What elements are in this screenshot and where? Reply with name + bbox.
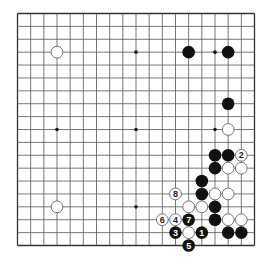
white-stone[interactable]: [222, 214, 234, 226]
black-stone[interactable]: [222, 226, 235, 239]
move-number-label: 2: [239, 150, 244, 160]
white-stone-icon: [222, 214, 234, 226]
black-stone-icon: [235, 226, 248, 239]
white-stone-icon: [209, 188, 221, 200]
white-stone[interactable]: [183, 201, 195, 213]
black-stone-icon: [209, 149, 222, 162]
black-stone[interactable]: [222, 97, 235, 110]
move-number-label: 1: [199, 228, 204, 238]
move-number-label: 8: [173, 189, 178, 199]
numbered-move[interactable]: 6: [156, 214, 168, 226]
black-stone-icon: [222, 226, 235, 239]
black-stone[interactable]: [222, 46, 235, 59]
black-stone-icon: [209, 201, 222, 214]
white-stone[interactable]: [222, 188, 234, 200]
white-stone-icon: [196, 201, 208, 213]
white-stone-icon: [183, 227, 195, 239]
move-number-label: 4: [173, 215, 178, 225]
black-stone[interactable]: [209, 213, 222, 226]
white-stone[interactable]: [51, 46, 63, 58]
white-stone-icon: [235, 162, 247, 174]
white-stone[interactable]: [222, 124, 234, 136]
star-point: [134, 205, 138, 209]
black-stone-icon: [209, 213, 222, 226]
white-stone-icon: [222, 124, 234, 136]
black-stone[interactable]: [235, 226, 248, 239]
numbered-move[interactable]: 3: [169, 226, 182, 239]
numbered-move[interactable]: 7: [182, 213, 195, 226]
white-stone[interactable]: [222, 162, 234, 174]
move-number-label: 6: [160, 215, 165, 225]
go-board[interactable]: 12345678: [0, 0, 272, 265]
move-number-label: 5: [186, 241, 191, 251]
star-point: [134, 128, 138, 132]
star-point: [213, 128, 217, 132]
white-stone-icon: [51, 46, 63, 58]
black-stone-icon: [196, 188, 209, 201]
black-stone-icon: [222, 46, 235, 59]
black-stone[interactable]: [209, 149, 222, 162]
white-stone[interactable]: [183, 227, 195, 239]
black-stone-icon: [209, 162, 222, 175]
numbered-move[interactable]: 2: [235, 149, 247, 161]
white-stone-icon: [222, 188, 234, 200]
white-stone-icon: [222, 162, 234, 174]
black-stone[interactable]: [196, 175, 209, 188]
white-stone[interactable]: [196, 201, 208, 213]
black-stone-icon: [196, 175, 209, 188]
star-point: [134, 50, 138, 54]
black-stone[interactable]: [209, 201, 222, 214]
white-stone[interactable]: [51, 201, 63, 213]
star-point: [55, 128, 59, 132]
numbered-move[interactable]: 1: [196, 226, 209, 239]
black-stone-icon: [182, 46, 195, 59]
black-stone[interactable]: [182, 46, 195, 59]
numbered-move[interactable]: 8: [170, 188, 182, 200]
star-point: [213, 50, 217, 54]
white-stone-icon: [51, 201, 63, 213]
numbered-move[interactable]: 4: [170, 214, 182, 226]
move-number-label: 7: [186, 215, 191, 225]
numbered-move[interactable]: 5: [182, 239, 195, 252]
white-stone-icon: [183, 201, 195, 213]
white-stone[interactable]: [235, 162, 247, 174]
white-stone[interactable]: [235, 214, 247, 226]
black-stone[interactable]: [222, 149, 235, 162]
black-stone[interactable]: [209, 162, 222, 175]
black-stone[interactable]: [196, 188, 209, 201]
white-stone[interactable]: [209, 188, 221, 200]
black-stone-icon: [222, 97, 235, 110]
black-stone-icon: [222, 149, 235, 162]
white-stone-icon: [235, 214, 247, 226]
move-number-label: 3: [173, 228, 178, 238]
